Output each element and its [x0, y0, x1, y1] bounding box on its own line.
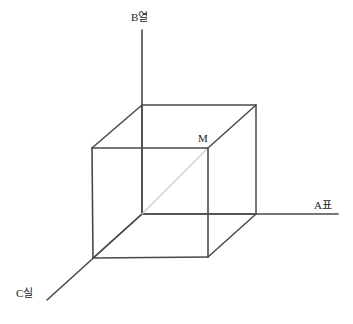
cube-edge-connector-top-left — [92, 105, 142, 148]
b-axis-label: B열 — [131, 12, 148, 23]
space-diagonal-line — [142, 148, 208, 214]
cube-edge-connector-bottom-left — [93, 214, 142, 258]
cube-edge-connector-bottom-right — [208, 214, 256, 257]
diagram-canvas: B열 A표 C실 M — [0, 0, 353, 324]
cube-edge-front-left — [92, 148, 93, 258]
vertex-m-label: M — [198, 133, 208, 144]
figure-svg — [0, 0, 353, 324]
c-axis-label: C실 — [16, 288, 33, 299]
cube-edge-front-bottom — [93, 257, 208, 258]
a-axis-label: A표 — [314, 200, 332, 211]
cube-edge-connector-top-right — [208, 105, 256, 148]
axes-group — [47, 30, 338, 300]
